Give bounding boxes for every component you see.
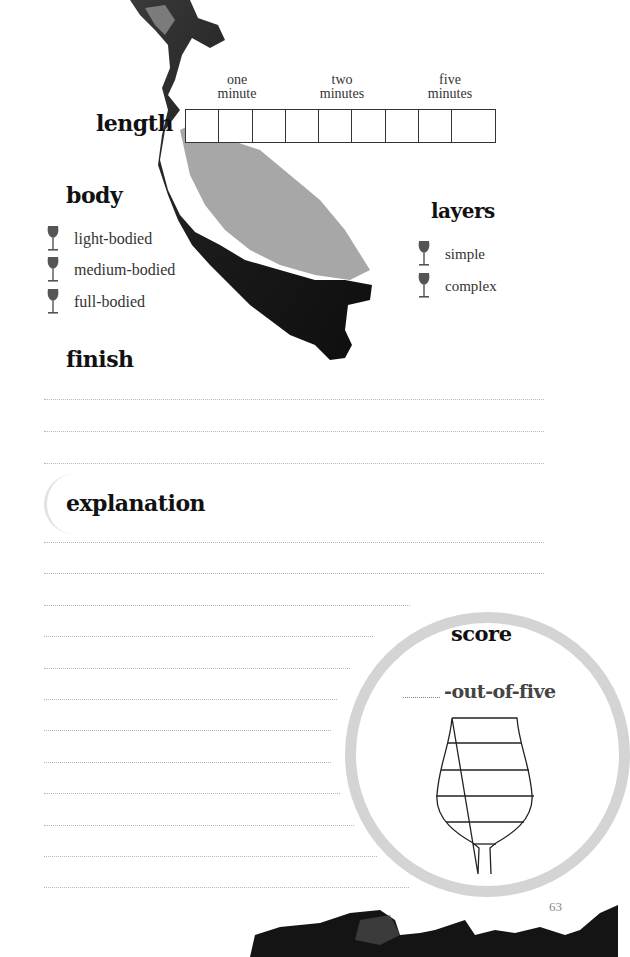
wine-glass-icon xyxy=(46,257,60,283)
body-title: body xyxy=(66,182,122,208)
finish-line-2[interactable] xyxy=(44,431,544,432)
explanation-line-5[interactable] xyxy=(44,668,350,669)
layers-option-simple[interactable]: simple xyxy=(417,241,485,267)
wine-glass-icon xyxy=(417,241,431,267)
length-boxes xyxy=(185,109,496,143)
body-option-label: full-bodied xyxy=(74,293,145,311)
score-wine-glass[interactable] xyxy=(430,715,540,877)
explanation-line-6[interactable] xyxy=(44,699,337,700)
length-marker-two-minutes: two minutes xyxy=(305,73,379,101)
body-option-light[interactable]: light-bodied xyxy=(46,226,152,252)
wine-glass-icon xyxy=(417,273,431,299)
length-box-1[interactable] xyxy=(186,110,219,142)
layers-option-label: complex xyxy=(445,278,497,295)
body-option-full[interactable]: full-bodied xyxy=(46,289,145,315)
score-title: score xyxy=(451,621,512,646)
length-title: length xyxy=(96,110,173,136)
explanation-line-4[interactable] xyxy=(44,636,373,637)
length-box-9[interactable] xyxy=(452,110,485,142)
body-option-label: medium-bodied xyxy=(74,261,175,279)
layers-title: layers xyxy=(431,199,495,223)
body-option-medium[interactable]: medium-bodied xyxy=(46,257,175,283)
length-box-2[interactable] xyxy=(219,110,252,142)
explanation-line-11[interactable] xyxy=(44,856,377,857)
length-box-3[interactable] xyxy=(253,110,286,142)
length-marker-five-minutes: five minutes xyxy=(413,73,487,101)
finish-line-3[interactable] xyxy=(44,463,544,464)
finish-line-1[interactable] xyxy=(44,399,544,400)
explanation-line-8[interactable] xyxy=(44,762,331,763)
body-option-label: light-bodied xyxy=(74,230,152,248)
explanation-line-2[interactable] xyxy=(44,573,544,574)
page-number: 63 xyxy=(549,899,562,915)
explanation-line-9[interactable] xyxy=(44,793,340,794)
length-box-7[interactable] xyxy=(386,110,419,142)
explanation-title: explanation xyxy=(66,490,205,516)
explanation-line-12[interactable] xyxy=(44,887,409,888)
length-marker-one-minute: one minute xyxy=(205,73,269,101)
finish-title: finish xyxy=(66,346,134,372)
wine-glass-icon xyxy=(46,226,60,252)
ink-stain-top xyxy=(120,0,380,365)
layers-option-complex[interactable]: complex xyxy=(417,273,497,299)
layers-option-label: simple xyxy=(445,246,485,263)
wine-glass-icon xyxy=(46,289,60,315)
length-box-6[interactable] xyxy=(352,110,385,142)
explanation-line-1[interactable] xyxy=(44,542,544,543)
explanation-line-7[interactable] xyxy=(44,730,331,731)
length-box-8[interactable] xyxy=(419,110,452,142)
length-box-5[interactable] xyxy=(319,110,352,142)
explanation-line-10[interactable] xyxy=(44,825,354,826)
score-input[interactable] xyxy=(403,697,440,698)
score-suffix: -out-of-five xyxy=(444,680,556,702)
explanation-line-3[interactable] xyxy=(44,605,410,606)
length-box-4[interactable] xyxy=(286,110,319,142)
